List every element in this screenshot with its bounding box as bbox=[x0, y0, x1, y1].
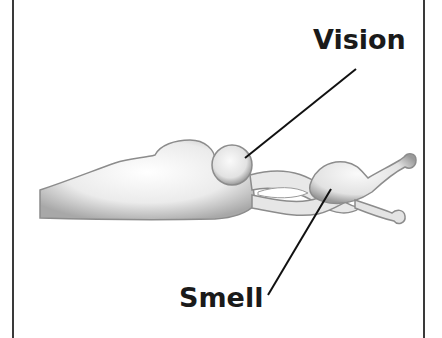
smell-bulb bbox=[310, 154, 416, 224]
vision-label: Vision bbox=[313, 24, 406, 55]
smell-label: Smell bbox=[179, 282, 263, 313]
vision-lobe bbox=[212, 145, 252, 185]
vision-leader-line bbox=[245, 69, 356, 158]
